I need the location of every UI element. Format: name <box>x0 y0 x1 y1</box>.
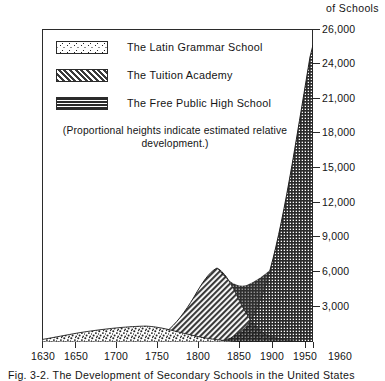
y-label-26000: 26,000 <box>322 23 355 35</box>
legend-label-tuition-academy: The Tuition Academy <box>127 69 233 81</box>
x-tick-1900 <box>272 342 273 348</box>
y-tick-18000 <box>313 132 320 133</box>
y-tick-6000 <box>313 271 320 272</box>
legend-swatch-dense-crosshatch-icon <box>56 97 108 110</box>
y-label-18000: 18,000 <box>322 126 355 138</box>
legend-label-free-public-high-school: The Free Public High School <box>127 97 271 109</box>
x-tick-1650 <box>75 342 76 348</box>
legend: The Latin Grammar School The Tuition Aca… <box>56 40 296 150</box>
x-tick-1750 <box>157 342 158 348</box>
y-tick-26000 <box>313 29 320 30</box>
legend-note: (Proportional heights indicate estimated… <box>52 124 298 150</box>
x-tick-1630 <box>42 342 43 348</box>
y-tick-15000 <box>313 167 320 168</box>
x-label-1700: 1700 <box>104 350 128 362</box>
legend-swatch-diagonal-hatch-icon <box>56 69 108 82</box>
x-tick-1950 <box>305 342 306 348</box>
x-label-1850: 1850 <box>227 350 251 362</box>
legend-swatch-speckled-dots-icon <box>56 41 108 54</box>
x-label-1950: 1950 <box>293 350 317 362</box>
x-label-1800: 1800 <box>186 350 210 362</box>
figure-caption: Fig. 3-2. The Development of Secondary S… <box>8 369 355 381</box>
legend-item-tuition-academy: The Tuition Academy <box>56 68 296 82</box>
x-label-1650: 1650 <box>64 350 88 362</box>
y-label-21000: 21,000 <box>322 92 355 104</box>
y-label-6000: 6,000 <box>322 265 349 277</box>
y-label-3000: 3,000 <box>322 300 349 312</box>
x-tick-1960 <box>313 342 314 348</box>
x-tick-1800 <box>198 342 199 348</box>
y-label-24000: 24,000 <box>322 57 355 69</box>
y-tick-12000 <box>313 202 320 203</box>
x-tick-1850 <box>239 342 240 348</box>
x-label-1630: 1630 <box>31 350 55 362</box>
y-tick-24000 <box>313 63 320 64</box>
x-label-1960: 1960 <box>328 350 352 362</box>
legend-label-latin-grammar-school: The Latin Grammar School <box>127 41 263 53</box>
x-tick-1700 <box>116 342 117 348</box>
legend-item-latin-grammar-school: The Latin Grammar School <box>56 40 296 54</box>
x-label-1750: 1750 <box>145 350 169 362</box>
y-label-12000: 12,000 <box>322 196 355 208</box>
x-label-1900: 1900 <box>260 350 284 362</box>
y-tick-21000 <box>313 98 320 99</box>
y-tick-9000 <box>313 236 320 237</box>
y-tick-3000 <box>313 306 320 307</box>
legend-item-free-public-high-school: The Free Public High School <box>56 96 296 110</box>
y-label-15000: 15,000 <box>322 161 355 173</box>
y-label-9000: 9,000 <box>322 230 349 242</box>
y-axis-title: of Schools <box>326 2 379 14</box>
